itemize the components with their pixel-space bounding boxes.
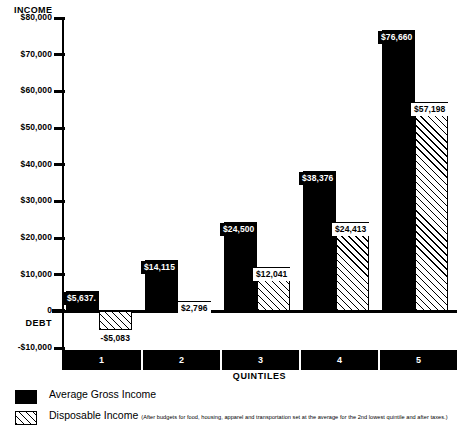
category-cell-5: 5 bbox=[378, 350, 457, 370]
category-cell-3: 3 bbox=[220, 350, 299, 370]
bar-value-label: $2,796 bbox=[178, 302, 211, 315]
plot-area: $5,637.-$5,083$14,115$2,796$24,500$12,04… bbox=[62, 18, 457, 348]
category-cell-4: 4 bbox=[299, 350, 378, 370]
bar-gross-income bbox=[303, 171, 336, 312]
y-tick-label-wrap: -$10,000 bbox=[0, 342, 52, 354]
chart-legend: Average Gross Income Disposable Income (… bbox=[15, 388, 455, 430]
bar-disposable-income bbox=[99, 311, 132, 330]
y-tick-label-wrap: $60,000 bbox=[0, 85, 52, 97]
y-tick-label: $50,000 bbox=[0, 122, 52, 132]
y-tick-label: $60,000 bbox=[0, 85, 52, 95]
legend-label-disposable-income: Disposable Income (After budgets for foo… bbox=[49, 409, 448, 421]
legend-swatch-solid-icon bbox=[15, 390, 37, 404]
legend-item-disposable-income: Disposable Income (After budgets for foo… bbox=[15, 409, 455, 430]
y-tick-label-wrap: 0 bbox=[0, 305, 52, 317]
y-tick-label: $40,000 bbox=[0, 159, 52, 169]
income-quintiles-chart: INCOME -$10,0000$10,000$20,000$30,000$40… bbox=[0, 0, 459, 437]
legend-item-gross-income: Average Gross Income bbox=[15, 388, 455, 409]
category-axis-band: 12345 bbox=[62, 350, 457, 370]
debt-axis-label: DEBT bbox=[0, 318, 52, 328]
bar-value-label: $38,376 bbox=[299, 172, 336, 185]
y-tick-label: 0 bbox=[0, 305, 52, 315]
legend-note-disposable-income: (After budgets for food, housing, appare… bbox=[141, 414, 447, 420]
bar-value-label: $76,660 bbox=[378, 31, 415, 44]
y-tick-label: -$10,000 bbox=[0, 342, 52, 352]
category-cell-2: 2 bbox=[141, 350, 220, 370]
y-tick-label: $70,000 bbox=[0, 49, 52, 59]
bar-value-label: $14,115 bbox=[141, 261, 178, 274]
category-cell-1: 1 bbox=[62, 350, 141, 370]
bar-value-label: $24,500 bbox=[220, 223, 257, 236]
y-tick-label: $80,000 bbox=[0, 12, 52, 22]
y-tick-label-wrap: $10,000 bbox=[0, 269, 52, 281]
legend-label-gross-income: Average Gross Income bbox=[49, 388, 156, 400]
y-tick-label: $20,000 bbox=[0, 232, 52, 242]
y-tick-label: $10,000 bbox=[0, 269, 52, 279]
bar-value-label: $5,637. bbox=[64, 292, 99, 305]
bar-disposable-income bbox=[415, 102, 448, 312]
y-tick-label-wrap: $70,000 bbox=[0, 49, 52, 61]
x-axis-title: QUINTILES bbox=[62, 371, 457, 381]
bar-value-label: $57,198 bbox=[411, 103, 448, 116]
y-tick-label-wrap: $30,000 bbox=[0, 195, 52, 207]
y-tick-label-wrap: $80,000 bbox=[0, 12, 52, 24]
legend-swatch-hatch-icon bbox=[15, 411, 37, 425]
y-tick-label-wrap: $50,000 bbox=[0, 122, 52, 134]
y-tick-label-wrap: $40,000 bbox=[0, 159, 52, 171]
bar-value-label: $12,041 bbox=[253, 268, 290, 281]
y-tick-label-wrap: $20,000 bbox=[0, 232, 52, 244]
legend-label-disposable-income-text: Disposable Income bbox=[49, 409, 138, 421]
y-tick-label: $30,000 bbox=[0, 195, 52, 205]
bar-value-label: -$5,083 bbox=[98, 332, 134, 345]
bar-gross-income bbox=[382, 30, 415, 311]
bar-value-label: $24,413 bbox=[332, 223, 369, 236]
